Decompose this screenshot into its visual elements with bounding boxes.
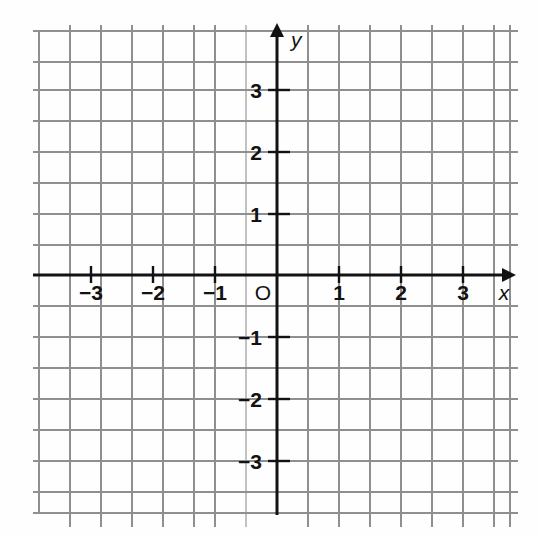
x-tick-label-3: 3 (457, 281, 469, 304)
y-tick-label-2: 2 (250, 141, 262, 164)
x-tick-label--1: −1 (203, 281, 227, 304)
x-axis-label: x (498, 281, 511, 304)
y-tick-label--3: −3 (238, 450, 262, 473)
coordinate-plane-svg: −3 −2 −1 1 2 3 3 2 1 −1 −2 −3 O y x (0, 0, 538, 537)
y-tick-label--1: −1 (238, 326, 262, 349)
x-tick-label-1: 1 (333, 281, 345, 304)
x-tick-label-2: 2 (395, 281, 407, 304)
graph-paper-figure: −3 −2 −1 1 2 3 3 2 1 −1 −2 −3 O y x (0, 0, 538, 537)
y-tick-label-1: 1 (250, 203, 262, 226)
x-tick-label--2: −2 (141, 281, 165, 304)
x-tick-label--3: −3 (79, 281, 103, 304)
origin-label: O (255, 281, 271, 304)
y-axis-label: y (289, 28, 303, 51)
y-tick-label--2: −2 (238, 388, 262, 411)
y-tick-label-3: 3 (250, 79, 262, 102)
paper-background (0, 0, 538, 537)
